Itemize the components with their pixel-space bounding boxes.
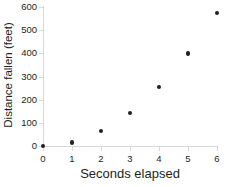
y-tick-label: 200: [8, 95, 37, 105]
data-point: [70, 140, 75, 145]
x-tick-mark: [72, 147, 73, 151]
x-tick-mark: [130, 147, 131, 151]
x-axis-title: Seconds elapsed: [43, 166, 217, 182]
x-tick-label: 4: [149, 153, 169, 164]
x-tick-label: 6: [207, 153, 226, 164]
x-tick-label: 5: [178, 153, 198, 164]
x-tick-label: 1: [62, 153, 82, 164]
x-tick-mark: [217, 147, 218, 151]
y-tick-label: 0: [8, 141, 37, 151]
x-tick-mark: [159, 147, 160, 151]
y-tick-label: 500: [8, 25, 37, 35]
x-tick-label: 3: [120, 153, 140, 164]
x-tick-label: 0: [33, 153, 53, 164]
data-point: [186, 51, 191, 56]
x-tick-mark: [101, 147, 102, 151]
data-point: [215, 11, 220, 16]
y-tick-label: 300: [8, 72, 37, 82]
y-tick-label: 600: [8, 2, 37, 12]
x-tick-label: 2: [91, 153, 111, 164]
data-point: [41, 144, 46, 149]
scatter-chart: Distance fallen (feet) 01002003004005006…: [0, 0, 226, 187]
y-tick-label: 100: [8, 118, 37, 128]
y-tick-label: 400: [8, 48, 37, 58]
plot-area: [43, 7, 217, 146]
x-tick-mark: [188, 147, 189, 151]
